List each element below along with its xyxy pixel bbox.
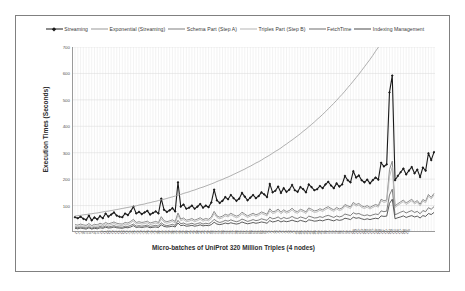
y-tick-label: 600 [63, 71, 70, 76]
legend-item-label: FetchTime [327, 26, 351, 32]
legend-item-streaming[interactable]: Streaming [43, 26, 88, 32]
legend-swatch-icon [240, 26, 257, 32]
plot-area [72, 47, 435, 232]
legend-swatch-icon [309, 26, 326, 32]
y-tick-label: 300 [63, 150, 70, 155]
series-marker-diamond-icon [177, 181, 180, 184]
series-marker-diamond-icon [213, 188, 216, 191]
series-marker-diamond-icon [433, 151, 435, 154]
series-marker-diamond-icon [391, 74, 394, 77]
chart-legend: StreamingExponential (Streaming)Schema P… [16, 26, 451, 32]
series-marker-diamond-icon [419, 176, 422, 179]
legend-item-label: Schema Part (Step A) [187, 26, 237, 32]
y-tick-label: 200 [63, 177, 70, 182]
legend-swatch-icon [91, 26, 108, 32]
legend-swatch-icon [46, 26, 63, 32]
legend-item-exponential-streaming[interactable]: Exponential (Streaming) [88, 26, 165, 32]
y-tick-label: 500 [63, 97, 70, 102]
y-tick-label: 700 [63, 45, 70, 50]
legend-item-label: Indexing Management [373, 26, 424, 32]
series-line-streaming [75, 76, 434, 221]
series-line-exponential-streaming [75, 47, 406, 216]
legend-item-fetchtime[interactable]: FetchTime [306, 26, 352, 32]
series-marker-diamond-icon [388, 91, 391, 94]
y-tick-label: 400 [63, 124, 70, 129]
series-layer [73, 47, 435, 232]
legend-swatch-icon [354, 26, 371, 32]
x-axis-title: Micro-batches of UniProt 320 Million Tri… [16, 244, 451, 251]
series-marker-diamond-icon [268, 183, 271, 186]
legend-item-label: Streaming [64, 26, 88, 32]
legend-item-triples-part-step-b[interactable]: Triples Part (Step B) [237, 26, 306, 32]
legend-item-indexing-management[interactable]: Indexing Management [351, 26, 424, 32]
legend-item-label: Exponential (Streaming) [109, 26, 165, 32]
legend-item-schema-part-step-a[interactable]: Schema Part (Step A) [165, 26, 237, 32]
y-axis-tick-labels: 100200300400500600700 [38, 41, 70, 237]
legend-item-label: Triples Part (Step B) [259, 26, 306, 32]
chart-screenshot: StreamingExponential (Streaming)Schema P… [0, 0, 465, 291]
chart-frame: StreamingExponential (Streaming)Schema P… [15, 15, 450, 272]
legend-swatch-icon [168, 26, 185, 32]
y-tick-label: 100 [63, 203, 70, 208]
